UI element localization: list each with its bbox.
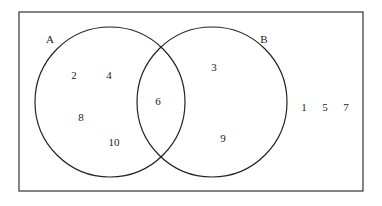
element-label: 3: [211, 61, 217, 73]
element-label: 8: [78, 111, 84, 123]
element-label: 1: [301, 101, 307, 113]
element-label: 4: [106, 69, 112, 81]
element-label: 7: [343, 101, 349, 113]
element-label: 2: [71, 69, 77, 81]
set-a-label: A: [46, 33, 54, 45]
element-label: 6: [155, 95, 161, 107]
element-label: 9: [220, 132, 226, 144]
element-label: 10: [109, 136, 121, 148]
set-a-circle: [35, 27, 185, 177]
element-label: 5: [322, 101, 328, 113]
venn-diagram: AB24810639157: [0, 0, 382, 206]
set-b-label: B: [260, 33, 267, 45]
